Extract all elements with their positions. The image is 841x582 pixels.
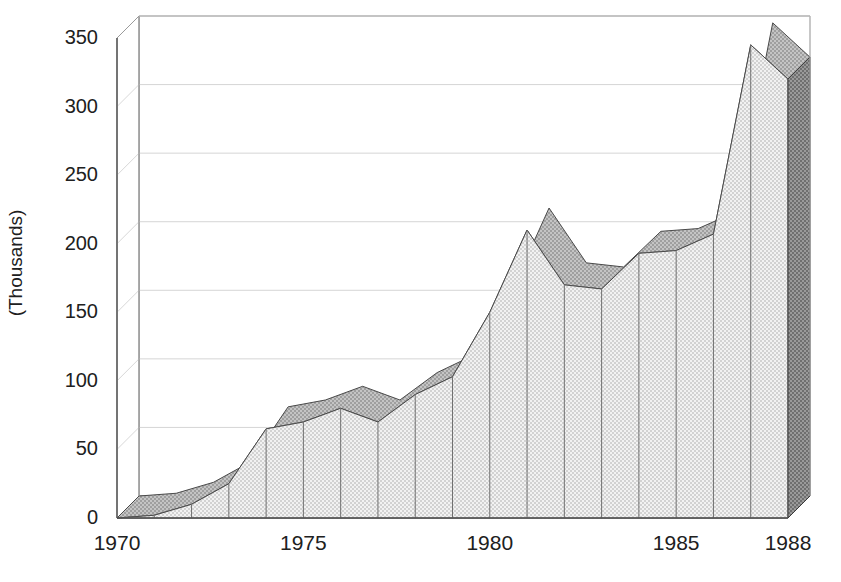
y-axis-title: (Thousands) [5,203,27,323]
area-chart-3d [0,0,841,582]
x-axis-tick-label: 1980 [445,532,535,553]
y-axis-tick-label: 100 [24,370,98,390]
y-axis-tick-label: 50 [24,438,98,458]
x-axis-tick-label: 1970 [72,532,162,553]
x-axis-tick-label: 1985 [631,532,721,553]
x-axis-tick-label: 1988 [743,532,833,553]
y-axis-tick-label: 250 [24,164,98,184]
y-axis-tick-label: 150 [24,301,98,321]
y-axis-tick-label: 300 [24,96,98,116]
y-axis-tick-label: 0 [24,507,98,527]
x-axis-tick-label: 1975 [258,532,348,553]
y-axis-tick-label: 200 [24,233,98,253]
chart-container: 050100150200250300350 197019751980198519… [0,0,841,582]
y-axis-tick-label: 350 [24,27,98,47]
